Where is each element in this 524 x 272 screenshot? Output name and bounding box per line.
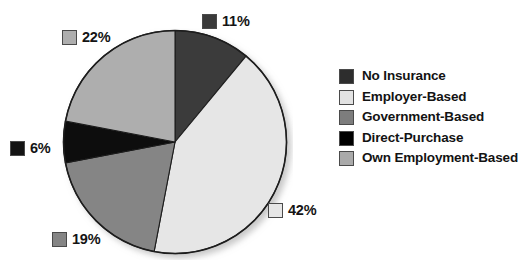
pie-chart-graphic xyxy=(61,28,293,260)
slice-callout-swatch xyxy=(202,14,217,29)
slice-callout-government-based: 19% xyxy=(52,232,100,247)
slice-callout-value: 6% xyxy=(30,141,51,156)
legend-label: Own Employment-Based xyxy=(362,151,518,165)
slice-callout-no-insurance: 11% xyxy=(202,14,250,29)
slice-callout-swatch xyxy=(62,30,77,45)
pie-svg xyxy=(61,28,293,260)
pie-chart-figure: 11% 42% 19% 6% 22% No Insurance Employer… xyxy=(0,0,524,272)
legend-item-government-based: Government-Based xyxy=(339,110,518,125)
pie-slices-group xyxy=(63,30,286,253)
slice-callout-swatch xyxy=(52,232,67,247)
legend-swatch xyxy=(339,151,354,166)
legend-swatch xyxy=(339,110,354,125)
slice-callout-employer-based: 42% xyxy=(268,203,316,218)
legend-item-direct-purchase: Direct-Purchase xyxy=(339,131,518,146)
slice-callout-value: 42% xyxy=(288,203,316,218)
slice-callout-own-employment-based: 22% xyxy=(62,30,110,45)
legend-item-no-insurance: No Insurance xyxy=(339,69,518,84)
slice-callout-direct-purchase: 6% xyxy=(10,141,51,156)
legend-label: Government-Based xyxy=(362,110,484,124)
legend-item-own-employment-based: Own Employment-Based xyxy=(339,151,518,166)
chart-legend: No Insurance Employer-Based Government-B… xyxy=(339,69,518,166)
legend-swatch xyxy=(339,90,354,105)
slice-callout-value: 22% xyxy=(82,30,110,45)
legend-item-employer-based: Employer-Based xyxy=(339,90,518,105)
legend-swatch xyxy=(339,131,354,146)
legend-swatch xyxy=(339,69,354,84)
legend-label: Direct-Purchase xyxy=(362,131,463,145)
slice-callout-value: 19% xyxy=(72,232,100,247)
slice-callout-swatch xyxy=(268,203,283,218)
slice-callout-value: 11% xyxy=(222,14,250,29)
legend-label: No Insurance xyxy=(362,69,446,83)
legend-label: Employer-Based xyxy=(362,90,466,104)
slice-callout-swatch xyxy=(10,141,25,156)
